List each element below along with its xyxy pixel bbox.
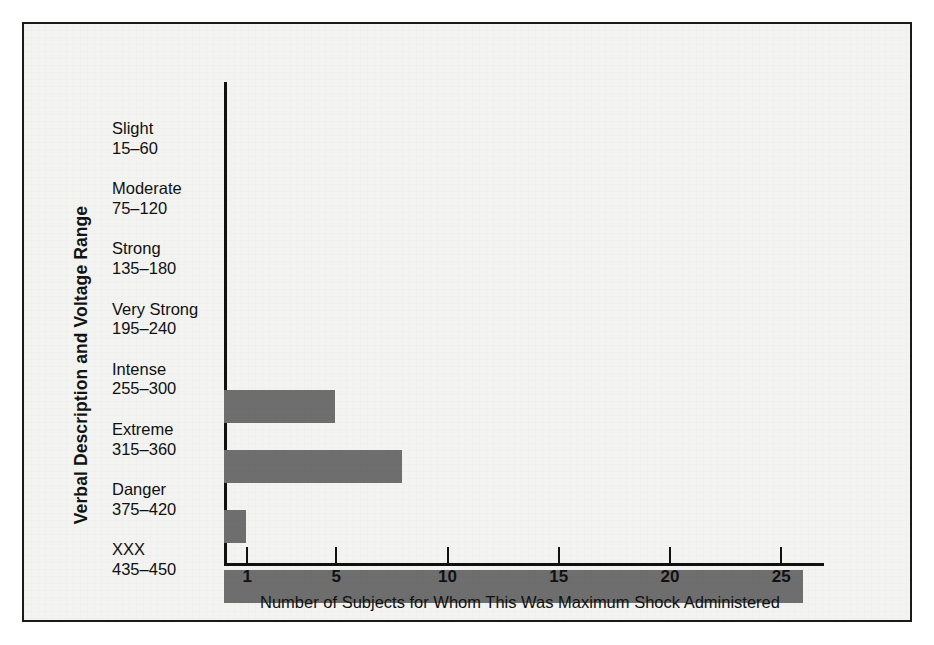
x-axis-tick <box>246 547 248 564</box>
category-label-range: 135–180 <box>112 259 220 279</box>
category-label: XXX435–450 <box>112 540 220 579</box>
category-label-name: XXX <box>112 540 220 560</box>
category-label-range: 375–420 <box>112 500 220 520</box>
category-label-name: Extreme <box>112 420 220 440</box>
x-axis-tick <box>558 547 560 564</box>
category-label: Very Strong195–240 <box>112 300 220 339</box>
y-axis-line <box>224 82 227 566</box>
category-label-name: Very Strong <box>112 300 220 320</box>
y-axis-title: Verbal Description and Voltage Range <box>71 130 97 600</box>
figure-plate: Verbal Description and Voltage Range Sli… <box>22 22 912 622</box>
figure-root: Verbal Description and Voltage Range Sli… <box>0 0 934 645</box>
category-label: Moderate75–120 <box>112 179 220 218</box>
category-label-name: Intense <box>112 360 220 380</box>
x-axis-tick <box>669 547 671 564</box>
category-label-range: 435–450 <box>112 560 220 580</box>
bar <box>224 450 402 483</box>
x-axis-tick <box>447 547 449 564</box>
category-label-range: 15–60 <box>112 139 220 159</box>
bar <box>224 510 246 543</box>
category-label-name: Moderate <box>112 179 220 199</box>
x-axis-tick-label: 20 <box>640 567 700 587</box>
category-label: Extreme315–360 <box>112 420 220 459</box>
x-axis-tick <box>780 547 782 564</box>
x-axis-tick-label: 10 <box>418 567 478 587</box>
x-axis-tick-label: 25 <box>751 567 811 587</box>
category-label-name: Strong <box>112 239 220 259</box>
category-label-range: 315–360 <box>112 440 220 460</box>
x-axis-tick <box>335 547 337 564</box>
x-axis-title: Number of Subjects for Whom This Was Max… <box>220 593 820 612</box>
category-label-name: Danger <box>112 480 220 500</box>
category-label-range: 255–300 <box>112 379 220 399</box>
category-label: Danger375–420 <box>112 480 220 519</box>
bar <box>224 390 335 423</box>
x-axis-tick-label: 15 <box>529 567 589 587</box>
category-label: Intense255–300 <box>112 360 220 399</box>
category-label: Slight15–60 <box>112 119 220 158</box>
x-axis-tick-label: 1 <box>217 567 277 587</box>
x-axis-tick-label: 5 <box>306 567 366 587</box>
category-label-range: 75–120 <box>112 199 220 219</box>
category-label-range: 195–240 <box>112 319 220 339</box>
category-label-name: Slight <box>112 119 220 139</box>
x-axis-line <box>224 563 824 566</box>
category-label: Strong135–180 <box>112 239 220 278</box>
